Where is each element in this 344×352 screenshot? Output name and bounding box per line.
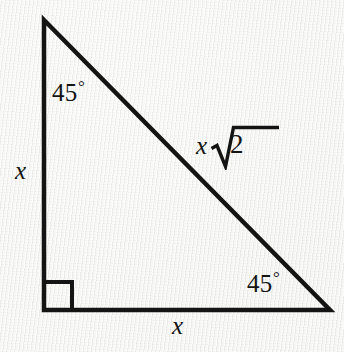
angle-top-value: 45 (52, 79, 78, 106)
angle-bottom-value: 45 (247, 270, 273, 297)
angle-label-top: 45° (52, 78, 85, 105)
side-label-horizontal-leg: x (172, 313, 183, 338)
right-angle-marker-icon (44, 282, 72, 310)
side-label-hypotenuse: x 2 (196, 124, 280, 170)
triangle-figure: 45° 45° x x x 2 (0, 0, 344, 352)
angle-label-bottom-right: 45° (247, 269, 280, 296)
side-label-vertical-leg: x (15, 158, 26, 183)
degree-icon-top: ° (78, 77, 85, 96)
degree-icon-bottom: ° (273, 268, 280, 287)
triangle-outline (44, 20, 330, 310)
hypotenuse-radicand: 2 (230, 131, 244, 158)
hypotenuse-coefficient: x (196, 133, 207, 158)
radical-sign-icon: 2 (210, 124, 280, 170)
triangle-drawing (0, 0, 344, 352)
